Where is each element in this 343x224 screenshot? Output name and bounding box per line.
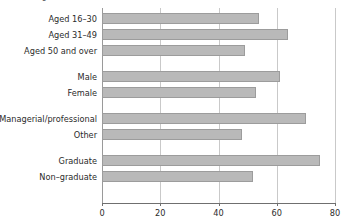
bar-row	[102, 129, 242, 140]
x-tick-mark	[335, 203, 336, 206]
bar	[102, 155, 320, 166]
plot-area	[102, 8, 335, 203]
x-tick-mark	[219, 203, 220, 206]
bar-chart: Percentage Aged 16–30Aged 31–49Aged 50 a…	[0, 0, 343, 224]
y-axis-label: Non–graduate	[39, 172, 97, 183]
x-tick-mark	[102, 203, 103, 206]
x-tick-label: 40	[213, 208, 223, 218]
bar	[102, 71, 280, 82]
y-axis-label: Male	[78, 72, 97, 83]
gridline-80	[335, 8, 336, 203]
y-axis-label: Aged 16–30	[48, 14, 97, 25]
bar-row	[102, 45, 245, 56]
bar-row	[102, 113, 306, 124]
x-tick-mark	[277, 203, 278, 206]
bar-row	[102, 171, 253, 182]
bar	[102, 45, 245, 56]
bar	[102, 87, 256, 98]
x-tick-label: 20	[155, 208, 165, 218]
x-tick-label: 80	[330, 208, 340, 218]
y-axis-labels: Aged 16–30Aged 31–49Aged 50 and overMale…	[0, 8, 97, 203]
bar	[102, 113, 306, 124]
bar	[102, 171, 253, 182]
y-axis-label: Managerial/professional	[0, 114, 97, 125]
bar-row	[102, 29, 288, 40]
y-axis-label: Graduate	[59, 156, 97, 167]
bar-row	[102, 87, 256, 98]
bar	[102, 29, 288, 40]
y-axis-label: Aged 50 and over	[24, 46, 97, 57]
bar	[102, 129, 242, 140]
bar-row	[102, 155, 320, 166]
bar-row	[102, 71, 280, 82]
bar-row	[102, 13, 259, 24]
bar	[102, 13, 259, 24]
y-axis-label: Female	[67, 88, 97, 99]
x-tick-label: 0	[99, 208, 104, 218]
chart-title-clipped: Percentage	[6, 0, 52, 1]
y-axis-label: Other	[74, 130, 97, 141]
y-axis-label: Aged 31–49	[48, 30, 97, 41]
x-tick-mark	[160, 203, 161, 206]
x-tick-label: 60	[272, 208, 282, 218]
